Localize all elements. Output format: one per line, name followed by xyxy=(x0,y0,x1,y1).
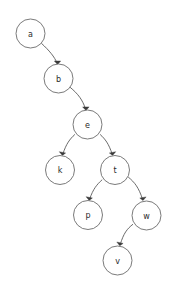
edge-t-to-p xyxy=(86,180,102,201)
edge-path-e-k xyxy=(63,134,75,154)
node-p-label: p xyxy=(85,211,90,220)
arrowhead-t-p xyxy=(86,197,92,201)
edge-path-a-b xyxy=(41,43,57,63)
edge-path-t-p xyxy=(90,180,103,200)
node-k-label: k xyxy=(58,166,63,175)
edge-b-to-e xyxy=(70,87,89,110)
node-w[interactable]: w xyxy=(132,201,161,230)
edge-path-t-w xyxy=(128,177,142,199)
arrowhead-e-k xyxy=(59,152,65,156)
edge-path-b-e xyxy=(70,87,86,109)
node-a[interactable]: a xyxy=(16,19,45,48)
node-p[interactable]: p xyxy=(74,201,103,230)
node-v[interactable]: v xyxy=(103,246,132,275)
node-t-label: t xyxy=(113,166,116,175)
edge-e-to-k xyxy=(59,134,75,155)
edge-path-e-t xyxy=(100,134,112,154)
tree-diagram: a b e k t p w xyxy=(0,0,175,292)
arrowhead-t-w xyxy=(140,197,146,201)
node-t[interactable]: t xyxy=(101,156,130,185)
nodes-layer: a b e k t p w xyxy=(16,19,161,275)
node-e[interactable]: e xyxy=(73,110,102,139)
node-v-label: v xyxy=(115,257,120,266)
node-b[interactable]: b xyxy=(44,64,73,93)
edge-path-w-v xyxy=(120,224,133,244)
node-a-label: a xyxy=(28,30,33,39)
node-w-label: w xyxy=(143,212,150,221)
edge-t-to-w xyxy=(128,177,146,201)
node-k[interactable]: k xyxy=(46,156,75,185)
edge-a-to-b xyxy=(41,43,60,64)
edge-w-to-v xyxy=(117,224,133,246)
edge-e-to-t xyxy=(100,134,116,155)
graph-canvas: a b e k t p w xyxy=(0,0,175,292)
arrowhead-w-v xyxy=(117,242,123,246)
arrowhead-e-t xyxy=(109,152,115,156)
node-e-label: e xyxy=(85,121,90,130)
node-b-label: b xyxy=(56,75,61,84)
